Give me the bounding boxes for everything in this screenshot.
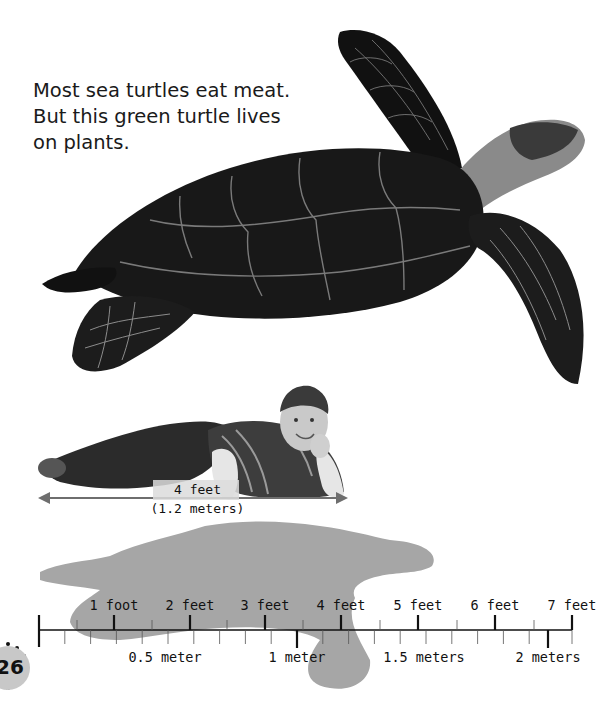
ruler-label-0-5-meter: 0.5 meter — [128, 649, 201, 665]
ruler-label-4-feet: 4 feet — [317, 597, 366, 613]
caption-line-1: Most sea turtles eat meat. — [33, 78, 290, 104]
page-number: 26 — [0, 655, 24, 679]
length-feet: 4 feet — [150, 480, 245, 499]
ruler-label-2-meters: 2 meters — [515, 649, 580, 665]
ruler-label-1-meter: 1 meter — [269, 649, 326, 665]
caption-line-3: on plants. — [33, 130, 290, 156]
ruler-label-1-5-meters: 1.5 meters — [383, 649, 464, 665]
boy-length-label: 4 feet (1.2 meters) — [150, 480, 245, 518]
ruler-label-7-feet: 7 feet — [548, 597, 597, 613]
ruler-label-1-foot: 1 foot — [90, 597, 139, 613]
length-meters: (1.2 meters) — [150, 499, 245, 518]
caption-line-2: But this green turtle lives — [33, 104, 290, 130]
ruler-label-5-feet: 5 feet — [394, 597, 443, 613]
ruler-label-3-feet: 3 feet — [241, 597, 290, 613]
ruler-label-6-feet: 6 feet — [471, 597, 520, 613]
caption-text: Most sea turtles eat meat. But this gree… — [33, 78, 290, 156]
ruler-label-2-feet: 2 feet — [166, 597, 215, 613]
